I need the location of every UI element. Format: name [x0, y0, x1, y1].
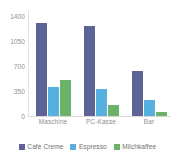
- bar-group: [29, 0, 77, 116]
- bar: [108, 105, 119, 116]
- bar: [96, 89, 107, 116]
- x-axis-tick-label: PC-Kasse: [77, 118, 125, 126]
- legend-label: Café Creme: [27, 143, 63, 150]
- y-axis-tick-label: 1400: [10, 13, 25, 20]
- legend-item[interactable]: Café Creme: [19, 143, 64, 150]
- bar-groups: [29, 0, 173, 116]
- legend-label: Espresso: [79, 143, 107, 150]
- y-axis-tick-label: 350: [14, 88, 25, 95]
- bar-group: [125, 0, 173, 116]
- chart-legend: Café CremeEspressoMilchkaffee: [0, 143, 175, 150]
- y-axis: 140010507003500: [0, 0, 28, 136]
- plot-area: [28, 0, 173, 136]
- x-axis-tick-label: Bar: [125, 118, 173, 126]
- bar: [132, 71, 143, 116]
- legend-swatch-icon: [70, 144, 76, 150]
- legend-swatch-icon: [114, 144, 120, 150]
- legend-item[interactable]: Espresso: [70, 143, 106, 150]
- y-axis-tick-label: 700: [14, 63, 25, 70]
- x-axis-line: [28, 116, 171, 117]
- plot-wrapper: 140010507003500 MaschinePC-KasseBar: [0, 0, 175, 136]
- bar: [156, 112, 167, 116]
- y-axis-tick-label: 0: [21, 113, 25, 120]
- x-axis-tick-labels: MaschinePC-KasseBar: [29, 118, 173, 126]
- bar: [36, 23, 47, 116]
- bar-group: [77, 0, 125, 116]
- bar: [144, 100, 155, 116]
- legend-label: Milchkaffee: [122, 143, 156, 150]
- bar: [60, 80, 71, 116]
- legend-swatch-icon: [19, 144, 25, 150]
- x-axis-tick-label: Maschine: [29, 118, 77, 126]
- bar: [84, 26, 95, 116]
- bar: [48, 87, 59, 116]
- bar-chart: 140010507003500 MaschinePC-KasseBar Café…: [0, 0, 175, 165]
- y-axis-tick-label: 1050: [10, 38, 25, 45]
- legend-item[interactable]: Milchkaffee: [114, 143, 156, 150]
